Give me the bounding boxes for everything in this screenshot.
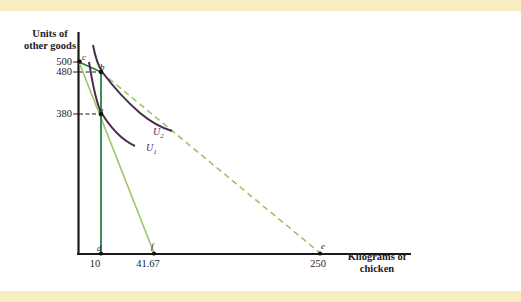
point-f	[152, 251, 156, 255]
point-label-b: b	[100, 62, 105, 72]
x-axis-title-line1: Kilograms of	[348, 251, 407, 262]
curve-label-u1-sub: 1	[153, 148, 157, 156]
point-label-c: c	[82, 52, 86, 62]
x-axis-title: Kilograms of chicken	[337, 251, 417, 274]
point-label-e: e	[321, 241, 325, 251]
y-axis-title-line1: Units of	[32, 28, 67, 39]
curve-label-u2: U2	[153, 126, 164, 140]
y-tick-label-480: 480	[46, 66, 72, 77]
x-tick-label-4167: 41.67	[127, 258, 169, 269]
y-axis-title-line2: other goods	[24, 40, 76, 51]
point-e	[318, 251, 322, 255]
figure-canvas: Units of other goods Kilograms of chicke…	[0, 0, 521, 302]
point-label-f: f	[151, 241, 154, 251]
y-tick-label-380: 380	[46, 108, 72, 119]
x-tick-label-10: 10	[82, 258, 108, 269]
chart-plot-area	[0, 0, 521, 302]
x-axis-title-line2: chicken	[360, 263, 394, 274]
point-label-a: a	[99, 105, 104, 115]
y-axis-title: Units of other goods	[22, 28, 78, 51]
point-label-d: d	[97, 243, 102, 253]
curve-label-u2-sub: 2	[160, 132, 164, 140]
curve-label-u1: U1	[146, 142, 157, 156]
x-tick-label-250: 250	[305, 258, 331, 269]
new-budget-line-dashed	[101, 72, 320, 253]
